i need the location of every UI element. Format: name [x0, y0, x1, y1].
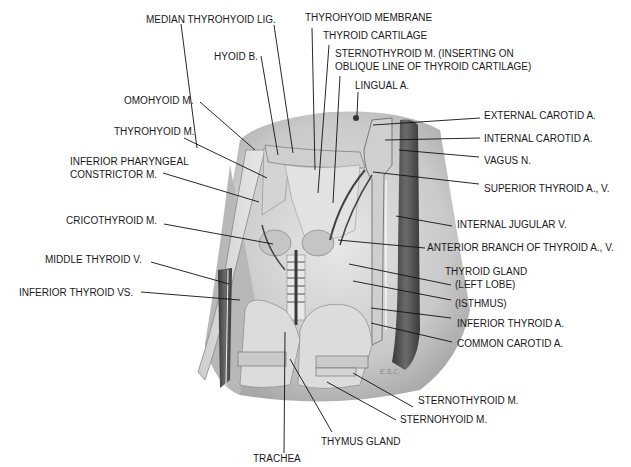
- label-thyroid-gland-line2: (LEFT LOBE): [455, 279, 515, 291]
- label-inferior-thyroid-artery: INFERIOR THYROID A.: [457, 318, 564, 330]
- label-isthmus: (ISTHMUS): [455, 298, 507, 310]
- label-inferior-pharyngeal-line2: CONSTRICTOR M.: [70, 169, 157, 181]
- anatomy-figure: MEDIAN THYROHYOID LIG. THYROHYOID MEMBRA…: [0, 0, 631, 467]
- label-sternothyroid-muscle: STERNOTHYROID M.: [418, 395, 519, 407]
- sternohyoid-cut-right: [316, 356, 368, 368]
- label-lingual-artery: LINGUAL A.: [355, 80, 409, 92]
- label-thyroid-gland-line1: THYROID GLAND: [445, 266, 527, 278]
- sternothyroid-cut-left: [238, 352, 286, 366]
- label-median-thyrohyoid-lig: MEDIAN THYROHYOID LIG.: [146, 14, 276, 26]
- label-sternohyoid-muscle: STERNOHYOID M.: [400, 414, 487, 426]
- label-inferior-thyroid-veins: INFERIOR THYROID VS.: [19, 287, 133, 299]
- label-vagus-nerve: VAGUS N.: [484, 155, 531, 167]
- label-middle-thyroid-vein: MIDDLE THYROID V.: [45, 254, 142, 266]
- label-trachea: TRACHEA: [253, 453, 301, 465]
- label-internal-jugular-vein: INTERNAL JUGULAR V.: [457, 219, 567, 231]
- label-thyrohyoid-muscle: THYROHYOID M.: [114, 126, 195, 138]
- cricothyroid-right: [302, 230, 334, 256]
- artist-signature: E.S.C.: [380, 368, 400, 375]
- label-cricothyroid-muscle: CRICOTHYROID M.: [66, 215, 157, 227]
- neck-illustration: [0, 0, 631, 467]
- label-thyroid-cartilage: THYROID CARTILAGE: [323, 30, 427, 42]
- label-sternothyroid-inserting-line2: OBLIQUE LINE OF THYROID CARTILAGE): [335, 61, 531, 73]
- label-anterior-branch-thyroid: ANTERIOR BRANCH OF THYROID A., V.: [427, 242, 614, 254]
- label-hyoid-bone: HYOID B.: [214, 51, 258, 63]
- left-jugular-vein: [218, 268, 232, 388]
- label-external-carotid-artery: EXTERNAL CAROTID A.: [484, 110, 596, 122]
- label-inferior-pharyngeal-line1: INFERIOR PHARYNGEAL: [70, 156, 189, 168]
- label-thyrohyoid-membrane: THYROHYOID MEMBRANE: [305, 12, 432, 24]
- label-thymus-gland: THYMUS GLAND: [321, 436, 400, 448]
- label-superior-thyroid-av: SUPERIOR THYROID A., V.: [484, 183, 610, 195]
- label-common-carotid-artery: COMMON CAROTID A.: [457, 338, 563, 350]
- label-omohyoid-muscle: OMOHYOID M.: [124, 95, 193, 107]
- label-sternothyroid-inserting-line1: STERNOTHYROID M. (INSERTING ON: [335, 48, 514, 60]
- label-internal-carotid-artery: INTERNAL CAROTID A.: [484, 133, 593, 145]
- lingual-artery-stump: [353, 115, 359, 121]
